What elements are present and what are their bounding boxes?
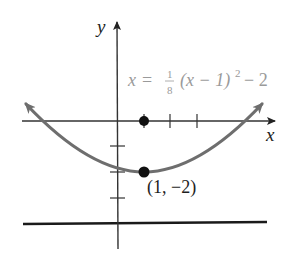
equation-equals: = xyxy=(142,70,152,90)
equation-fraction-numerator: 1 xyxy=(167,68,173,80)
equation-tail: − 2 xyxy=(244,70,268,90)
x-axis-label: x xyxy=(265,124,275,145)
equation-exponent: 2 xyxy=(235,67,241,79)
parabola-graph: y x x = 1 8 (x − 1) 2 − 2 (1, −2) xyxy=(0,0,298,277)
directrix-line xyxy=(23,222,267,224)
equation-body: (x − 1) xyxy=(180,70,230,91)
y-axis-label: y xyxy=(95,16,106,37)
equation-lhs: x xyxy=(127,70,136,90)
vertex-point xyxy=(139,167,150,178)
vertex-label: (1, −2) xyxy=(147,177,196,198)
parabola-curve-right xyxy=(144,104,262,172)
equation-label: x = 1 8 (x − 1) 2 − 2 xyxy=(127,67,268,96)
equation-fraction-denominator: 8 xyxy=(167,84,173,96)
y-axis xyxy=(117,22,118,249)
parabola-curve xyxy=(26,104,144,172)
focus-point xyxy=(139,116,149,126)
